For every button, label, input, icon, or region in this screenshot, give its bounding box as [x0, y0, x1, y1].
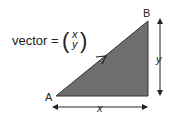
vector-component-y: y: [71, 38, 79, 50]
equation-lhs: vector =: [12, 33, 59, 48]
right-paren: ): [80, 28, 87, 53]
horizontal-dimension-label: x: [96, 102, 103, 114]
left-paren: (: [62, 28, 70, 53]
vector-diagram: A B y x vector = ( x y ): [0, 0, 172, 122]
right-triangle: [56, 21, 148, 96]
point-b-label: B: [143, 7, 150, 19]
point-a-label: A: [45, 91, 53, 103]
vertical-dimension-label: y: [155, 53, 163, 65]
